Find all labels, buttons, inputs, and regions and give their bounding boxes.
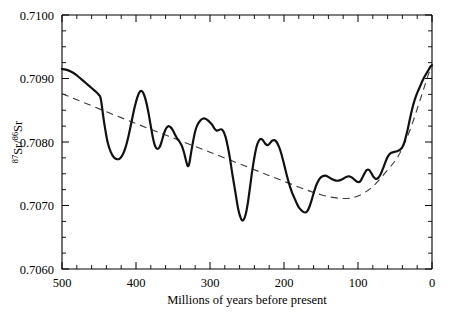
x-axis-label: Millions of years before present — [167, 293, 327, 307]
axis-ticks — [62, 15, 432, 269]
y-axis-label-sup-86: 86 — [11, 132, 20, 140]
chart-canvas: 50040030020010000.70600.70700.70800.7090… — [0, 0, 450, 320]
x-tick-label: 300 — [201, 276, 220, 290]
y-axis-label-sr-slash: Sr/ — [11, 140, 25, 155]
y-tick-label: 0.7100 — [20, 9, 54, 23]
y-tick-label: 0.7070 — [20, 199, 54, 213]
y-axis-label: 87Sr/86Sr — [11, 120, 25, 163]
x-tick-label: 500 — [53, 276, 72, 290]
y-axis-label-sup-87: 87 — [11, 155, 20, 163]
seawater-strontium-curve — [62, 65, 432, 220]
x-tick-label: 100 — [349, 276, 368, 290]
x-tick-label: 400 — [127, 276, 146, 290]
x-tick-label: 200 — [275, 276, 294, 290]
strontium-isotope-chart: 50040030020010000.70600.70700.70800.7090… — [0, 0, 450, 320]
y-tick-label: 0.7060 — [20, 263, 54, 277]
x-tick-label: 0 — [429, 276, 435, 290]
data-series — [62, 65, 432, 220]
y-axis-label-sr: Sr — [11, 120, 25, 132]
axes — [62, 15, 432, 269]
svg-text:87Sr/86Sr: 87Sr/86Sr — [11, 120, 25, 163]
y-tick-label: 0.7090 — [20, 72, 54, 86]
axis-spines — [62, 15, 432, 269]
